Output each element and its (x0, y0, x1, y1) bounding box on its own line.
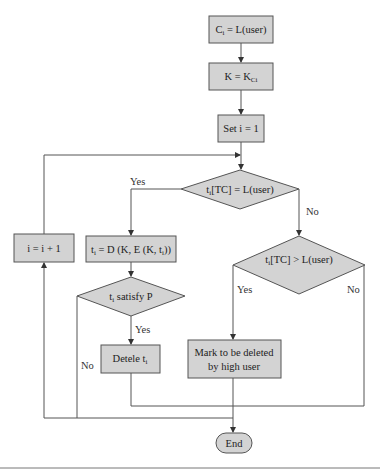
edge-label-satisfy-yes: Yes (135, 324, 150, 335)
node-end-label: End (226, 438, 244, 449)
edge-label-tc-equal-yes: Yes (130, 176, 145, 187)
edge-label-tc-equal-no: No (306, 206, 319, 217)
edge-label-satisfy-no: No (81, 360, 94, 371)
flowchart-canvas: Ci = L(user) K = KCi Set i = 1 ti[TC] = … (0, 0, 380, 471)
node-mark-box (188, 340, 281, 378)
node-increment-i-label: i = i + 1 (27, 243, 60, 254)
edge-label-tc-greater-yes: Yes (237, 284, 252, 295)
edge-label-tc-greater-no: No (347, 284, 360, 295)
edge-tc-equal-yes (131, 189, 181, 235)
nodes (14, 16, 365, 453)
node-mark-label-line2: by high user (208, 361, 260, 372)
node-set-i-label: Set i = 1 (223, 123, 258, 134)
flowchart: Ci = L(user) K = KCi Set i = 1 ti[TC] = … (0, 0, 380, 471)
node-decision-tc-greater-shape (233, 236, 365, 294)
node-mark-label-line1: Mark to be deleted (194, 347, 274, 358)
